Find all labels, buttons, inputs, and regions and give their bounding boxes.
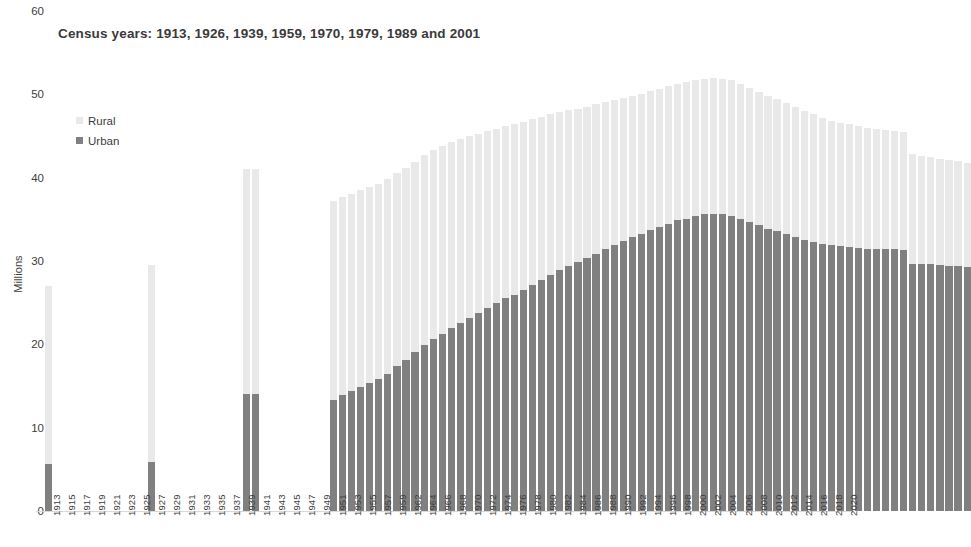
- bar-segment-rural-1975: [556, 112, 563, 270]
- bar-stack-1996[interactable]: [746, 88, 753, 511]
- bar-segment-rural-1987: [665, 86, 672, 223]
- bar-stack-1959[interactable]: [411, 162, 418, 511]
- bar-stack-2004[interactable]: [819, 118, 826, 511]
- bar-stack-1950[interactable]: [330, 201, 337, 511]
- bar-segment-urban-2006: [837, 246, 844, 511]
- bar-stack-2020[interactable]: [964, 163, 971, 511]
- bar-stack-1972[interactable]: [529, 119, 536, 511]
- bar-stack-1957[interactable]: [393, 173, 400, 511]
- bar-stack-1984[interactable]: [638, 94, 645, 511]
- bar-stack-1926[interactable]: [148, 265, 155, 511]
- bar-stack-2019[interactable]: [954, 161, 961, 511]
- bar-stack-1966[interactable]: [475, 134, 482, 511]
- bar-segment-rural-1969: [502, 126, 509, 298]
- bar-stack-2007[interactable]: [846, 124, 853, 511]
- bar-stack-1958[interactable]: [402, 168, 409, 511]
- bar-stack-1967[interactable]: [484, 131, 491, 511]
- bar-stack-1981[interactable]: [611, 100, 618, 511]
- bar-stack-2001[interactable]: [792, 107, 799, 511]
- bar-stack-1995[interactable]: [737, 84, 744, 511]
- bar-stack-1986[interactable]: [656, 89, 663, 511]
- bar-stack-1993[interactable]: [719, 79, 726, 511]
- bar-stack-2009[interactable]: [864, 128, 871, 511]
- bar-stack-2011[interactable]: [882, 130, 889, 511]
- bar-stack-2008[interactable]: [855, 126, 862, 511]
- bar-stack-2014[interactable]: [909, 154, 916, 511]
- bar-stack-1982[interactable]: [620, 98, 627, 511]
- x-axis-tick-1994: 1994: [652, 494, 663, 516]
- bar-stack-1970[interactable]: [511, 124, 518, 511]
- bar-stack-1953[interactable]: [357, 190, 364, 511]
- x-axis-tick-1927: 1927: [156, 494, 167, 516]
- bar-stack-1969[interactable]: [502, 126, 509, 511]
- bar-stack-1997[interactable]: [755, 92, 762, 511]
- bar-stack-1976[interactable]: [565, 110, 572, 511]
- x-axis-tick-1937: 1937: [231, 494, 242, 516]
- bar-stack-1952[interactable]: [348, 194, 355, 511]
- bar-segment-rural-1998: [764, 96, 771, 228]
- bar-stack-1940[interactable]: [252, 169, 259, 511]
- bar-stack-1987[interactable]: [665, 86, 672, 511]
- bar-stack-1965[interactable]: [466, 136, 473, 511]
- bar-stack-1968[interactable]: [493, 129, 500, 511]
- bar-stack-1961[interactable]: [430, 150, 437, 511]
- bar-segment-urban-2019: [954, 266, 961, 511]
- bar-segment-urban-2005: [828, 245, 835, 511]
- bar-stack-1963[interactable]: [448, 142, 455, 511]
- bar-stack-1960[interactable]: [421, 155, 428, 511]
- bar-stack-2016[interactable]: [927, 157, 934, 511]
- bar-stack-2000[interactable]: [783, 103, 790, 511]
- bar-stack-1989[interactable]: [683, 82, 690, 511]
- bar-stack-1999[interactable]: [773, 99, 780, 511]
- bar-stack-1913[interactable]: [45, 286, 52, 511]
- bar-segment-urban-1979: [592, 254, 599, 511]
- bar-stack-2003[interactable]: [810, 114, 817, 511]
- bar-stack-1991[interactable]: [701, 79, 708, 511]
- bar-stack-1951[interactable]: [339, 197, 346, 511]
- bar-segment-urban-1978: [583, 258, 590, 511]
- bar-stack-1954[interactable]: [366, 187, 373, 511]
- bar-stack-2017[interactable]: [936, 159, 943, 511]
- bar-stack-2018[interactable]: [945, 160, 952, 511]
- x-axis-tick-1917: 1917: [81, 494, 92, 516]
- bar-segment-rural-1988: [674, 84, 681, 221]
- bar-stack-1998[interactable]: [764, 96, 771, 511]
- bar-stack-1980[interactable]: [602, 102, 609, 511]
- bar-stack-2005[interactable]: [828, 121, 835, 511]
- bar-stack-1985[interactable]: [647, 91, 654, 511]
- bar-stack-1992[interactable]: [710, 78, 717, 511]
- bar-stack-1955[interactable]: [375, 184, 382, 511]
- bar-stack-1975[interactable]: [556, 112, 563, 511]
- bar-stack-2012[interactable]: [891, 131, 898, 511]
- x-axis-tick-1962: 1962: [412, 494, 423, 516]
- bar-stack-2002[interactable]: [801, 111, 808, 511]
- bar-stack-2013[interactable]: [900, 132, 907, 511]
- bar-segment-urban-1986: [656, 227, 663, 511]
- bar-stack-1990[interactable]: [692, 80, 699, 511]
- bar-stack-1971[interactable]: [520, 122, 527, 511]
- bar-stack-2015[interactable]: [918, 156, 925, 511]
- bar-segment-rural-2015: [918, 156, 925, 264]
- bar-stack-1956[interactable]: [384, 179, 391, 511]
- bar-segment-rural-2018: [945, 160, 952, 266]
- bar-stack-1977[interactable]: [574, 109, 581, 511]
- bar-stack-1978[interactable]: [583, 107, 590, 511]
- bar-stack-1962[interactable]: [439, 146, 446, 511]
- bar-stack-1973[interactable]: [538, 117, 545, 511]
- bar-segment-urban-1977: [574, 262, 581, 511]
- bar-stack-1964[interactable]: [457, 139, 464, 511]
- bar-stack-1983[interactable]: [629, 96, 636, 511]
- bar-stack-1974[interactable]: [547, 114, 554, 511]
- bar-segment-rural-2008: [855, 126, 862, 248]
- bar-segment-rural-1951: [339, 197, 346, 395]
- x-axis-tick-1988: 1988: [607, 494, 618, 516]
- bar-stack-2006[interactable]: [837, 123, 844, 511]
- bar-stack-1988[interactable]: [674, 84, 681, 511]
- bar-stack-1994[interactable]: [728, 80, 735, 511]
- bar-stack-2010[interactable]: [873, 129, 880, 511]
- bar-stack-1939[interactable]: [243, 169, 250, 511]
- x-axis-tick-2000: 2000: [697, 494, 708, 516]
- bar-stack-1979[interactable]: [592, 104, 599, 511]
- bar-segment-rural-1958: [402, 168, 409, 360]
- bar-segment-rural-1952: [348, 194, 355, 391]
